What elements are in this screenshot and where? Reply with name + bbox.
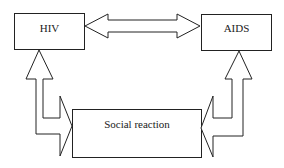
hiv-label: HIV [14, 22, 85, 34]
social-reaction-label: Social reaction [72, 118, 202, 130]
aids-social-elbow-arrow [201, 51, 252, 157]
aids-label: AIDS [201, 22, 272, 34]
social-reaction-box [73, 110, 202, 158]
hiv-social-elbow-arrow [26, 50, 72, 156]
hiv-aids-double-arrow [85, 14, 200, 38]
